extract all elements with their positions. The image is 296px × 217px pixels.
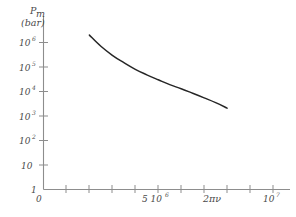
svg-text:6: 6 <box>32 35 36 42</box>
svg-text:4: 4 <box>31 84 36 91</box>
svg-text:10: 10 <box>19 38 31 48</box>
svg-text:10: 10 <box>19 112 31 122</box>
y-axis-title: P m (bar) <box>21 5 45 28</box>
svg-text:6: 6 <box>165 191 169 198</box>
svg-text:7: 7 <box>276 191 280 198</box>
y-tick-label-1e2: 10 2 <box>19 133 36 146</box>
x-tick-label-1e7: 10 7 <box>263 191 280 204</box>
data-curve <box>89 35 227 108</box>
origin-label: 0 <box>36 194 42 204</box>
x-tick-label-5e6: 5 10 6 <box>142 191 169 204</box>
svg-text:10: 10 <box>19 87 31 97</box>
semilog-chart: P m (bar) 10 6 10 5 10 4 10 3 10 2 10 1 … <box>0 0 296 217</box>
y-tick-label-1e3: 10 3 <box>19 109 36 122</box>
svg-text:2: 2 <box>31 133 36 140</box>
svg-text:5 10: 5 10 <box>142 194 162 204</box>
svg-text:5: 5 <box>32 60 36 67</box>
x-axis-title: 2πν <box>202 193 221 204</box>
y-tick-label-10: 10 <box>21 161 33 171</box>
y-tick-label-1e4: 10 4 <box>19 84 36 97</box>
y-axis-title-unit: (bar) <box>21 17 45 28</box>
svg-text:10: 10 <box>19 63 31 73</box>
y-tick-label-1e5: 10 5 <box>19 60 36 73</box>
svg-text:10: 10 <box>21 161 33 171</box>
svg-text:10: 10 <box>263 194 275 204</box>
svg-text:10: 10 <box>19 136 31 146</box>
svg-text:3: 3 <box>32 109 36 116</box>
y-tick-label-1e6: 10 6 <box>19 35 36 48</box>
